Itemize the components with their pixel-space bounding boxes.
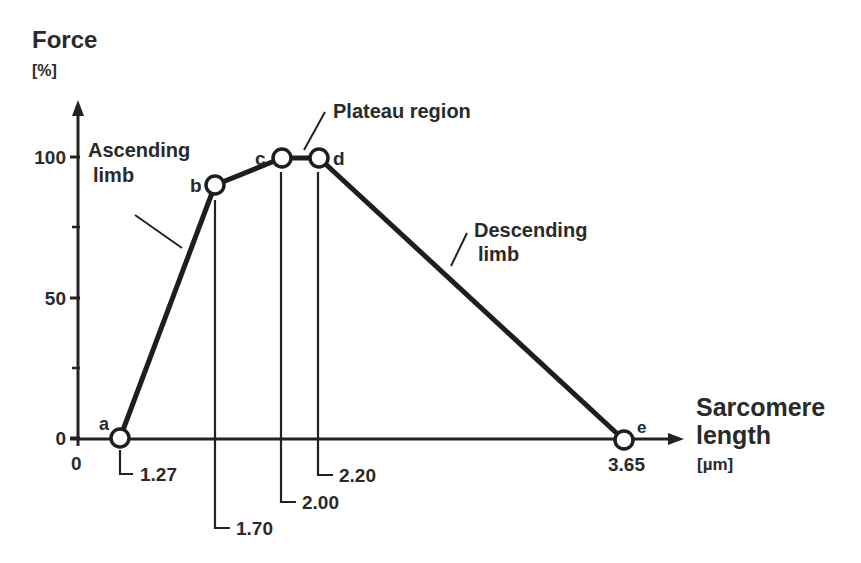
point-d-marker-icon [310,149,328,167]
x-axis: 0 Sarcomere length [µm] [70,393,825,474]
point-c-label: c [255,148,266,169]
x-label-a: 1.27 [140,464,177,485]
ytick-100: 100 [34,147,66,168]
annotation-descending-line2: limb [478,243,519,265]
point-b-label: b [190,175,202,196]
x-label-c: 2.00 [302,492,339,513]
y-axis-arrow-icon [72,100,84,116]
annotation-leaders [135,112,467,266]
annotation-ascending-line1: Ascending [88,139,190,161]
point-e-label: e [637,418,646,437]
point-a-marker-icon [111,429,129,447]
x-label-d: 2.20 [339,465,376,486]
point-b-marker-icon [206,176,224,194]
point-a-label: a [99,414,110,434]
x-axis-title-line2: length [696,421,771,449]
point-e-marker-icon [615,431,633,449]
force-length-chart: 100 50 0 Force [%] 0 Sarcomere length [µ… [0,0,861,563]
x-label-b: 1.70 [236,518,273,539]
annotation-plateau: Plateau region [333,100,471,122]
x-label-e: 3.65 [608,454,645,475]
x-axis-title-line1: Sarcomere [696,393,825,421]
y-axis-unit: [%] [32,62,57,79]
annotation-descending-line1: Descending [474,219,587,241]
x-axis-arrow-icon [668,433,684,445]
y-axis: 100 50 0 Force [%] [32,26,97,449]
ytick-50: 50 [45,288,66,309]
x-axis-unit: [µm] [697,455,733,474]
ytick-0: 0 [55,428,66,449]
point-c-marker-icon [273,149,291,167]
x-origin-label: 0 [71,453,82,474]
annotation-ascending-line2: limb [93,164,134,186]
point-d-label: d [333,148,345,169]
y-axis-title: Force [32,26,97,53]
force-length-curve [120,158,624,440]
